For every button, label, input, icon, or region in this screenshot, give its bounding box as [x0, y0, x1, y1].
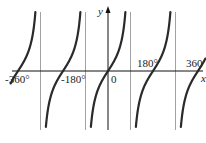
tangent-branch: [136, 12, 171, 127]
tangent-branch: [46, 12, 80, 127]
tick-label-minus-180: -180°: [61, 73, 86, 85]
y-axis-label: y: [97, 5, 103, 17]
tick-label-180: 180°: [137, 57, 158, 69]
tick-label-0: 0: [111, 73, 117, 85]
x-axis-label: x: [200, 72, 206, 84]
tangent-graph: y x -360° -180° 0 180° 360: [0, 0, 206, 143]
tick-label-minus-360: -360°: [5, 73, 30, 85]
tick-label-360: 360: [186, 57, 203, 69]
y-axis-arrow-icon: [106, 6, 111, 13]
